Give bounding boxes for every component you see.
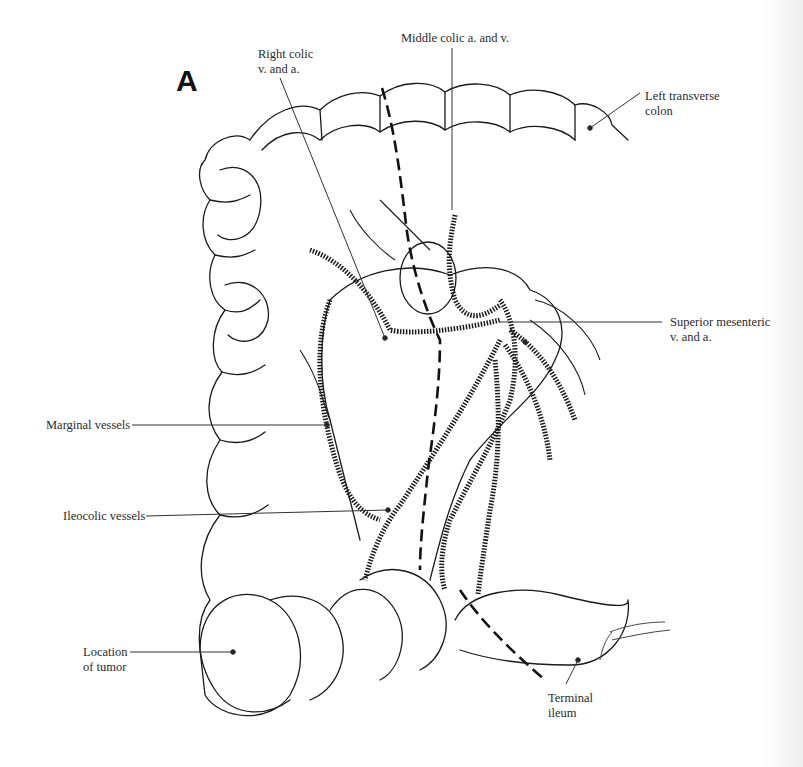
- label-location-of-tumor: Location of tumor: [83, 645, 127, 675]
- ileocolic-vessel: [365, 340, 500, 580]
- label-left-transverse-colon: Left transverse colon: [645, 89, 720, 119]
- label-terminal-ileum: Terminal ileum: [548, 691, 593, 721]
- marginal-vessel: [320, 300, 380, 520]
- artist-signature: [600, 622, 670, 660]
- label-superior-mesenteric: Superior mesenteric v. and a.: [670, 315, 770, 345]
- superior-mesenteric-trunk: [442, 300, 515, 590]
- terminal-ileum-loop: [455, 590, 628, 665]
- label-marginal-vessels: Marginal vessels: [46, 418, 130, 433]
- label-right-colic: Right colic v. and a.: [258, 47, 313, 77]
- resection-line-lower: [460, 590, 545, 680]
- panel-letter: A: [176, 66, 198, 96]
- cecum-tumor: [200, 594, 300, 715]
- middle-colic-vessel: [449, 215, 500, 316]
- colon-outline: [250, 83, 628, 140]
- right-colic-vessel: [310, 250, 500, 332]
- mesenteric-window: [400, 242, 456, 314]
- label-middle-colic: Middle colic a. and v.: [401, 31, 509, 46]
- label-ileocolic-vessels: Ileocolic vessels: [63, 509, 145, 524]
